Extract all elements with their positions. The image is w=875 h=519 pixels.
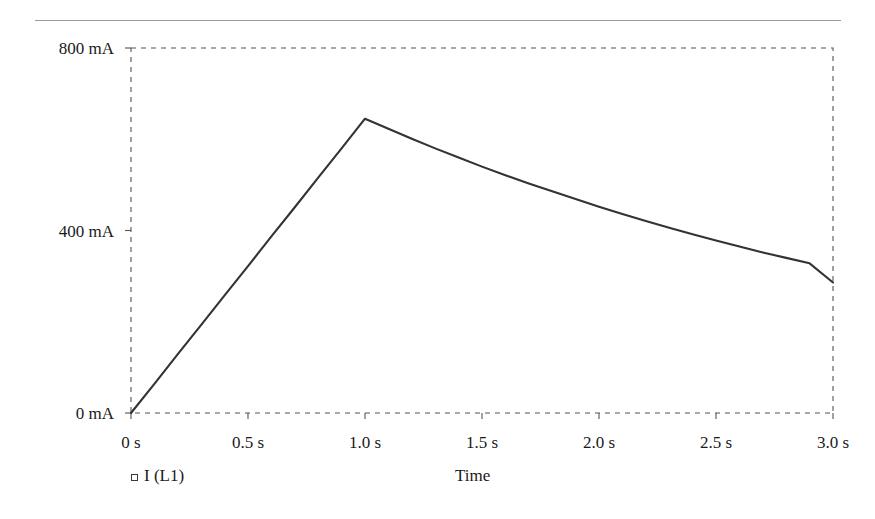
plot-frame	[131, 48, 833, 413]
y-tick-label-0: 0 mA	[0, 405, 114, 422]
y-tick-label-400: 400 mA	[0, 223, 114, 240]
x-axis-title: Time	[455, 466, 490, 486]
x-tick-label-0-5: 0.5 s	[208, 434, 288, 451]
x-axis-ticks	[131, 413, 833, 419]
x-tick-label-0: 0 s	[91, 434, 171, 451]
x-tick-label-1-5: 1.5 s	[442, 434, 522, 451]
chart-legend: I (L1)	[131, 466, 184, 486]
x-tick-label-2-0: 2.0 s	[559, 434, 639, 451]
chart-figure: 800 mA 400 mA 0 mA 0 s 0.5 s 1.0 s 1.5 s…	[0, 0, 875, 519]
series-line-i-l1	[131, 119, 833, 413]
x-tick-label-3-0: 3.0 s	[793, 434, 873, 451]
y-axis-ticks	[125, 48, 131, 413]
legend-label-i-l1: I (L1)	[144, 466, 184, 486]
x-tick-label-2-5: 2.5 s	[676, 434, 756, 451]
open-square-marker-icon	[131, 474, 138, 481]
x-tick-label-1-0: 1.0 s	[325, 434, 405, 451]
y-tick-label-800: 800 mA	[0, 40, 114, 57]
